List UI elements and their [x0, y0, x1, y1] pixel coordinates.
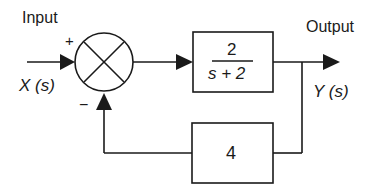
- plus-sign: +: [65, 32, 74, 49]
- input-signal-label: X (s): [19, 76, 55, 96]
- forward-block-numerator: 2: [227, 40, 236, 60]
- output-arrow-icon: [323, 54, 340, 70]
- block-diagram: Input + X (s) − 2 s + 2 Output Y (s) 4: [0, 0, 383, 193]
- forward-block-denominator: s + 2: [208, 64, 245, 84]
- feedback-block-gain: 4: [226, 143, 236, 164]
- input-arrow-icon: [60, 54, 75, 70]
- input-label: Input: [22, 9, 58, 27]
- minus-sign: −: [79, 96, 88, 114]
- output-label: Output: [306, 18, 354, 36]
- feedback-arrow-icon: [96, 93, 112, 110]
- forward-arrow-icon: [176, 54, 193, 70]
- output-signal-label: Y (s): [313, 82, 349, 102]
